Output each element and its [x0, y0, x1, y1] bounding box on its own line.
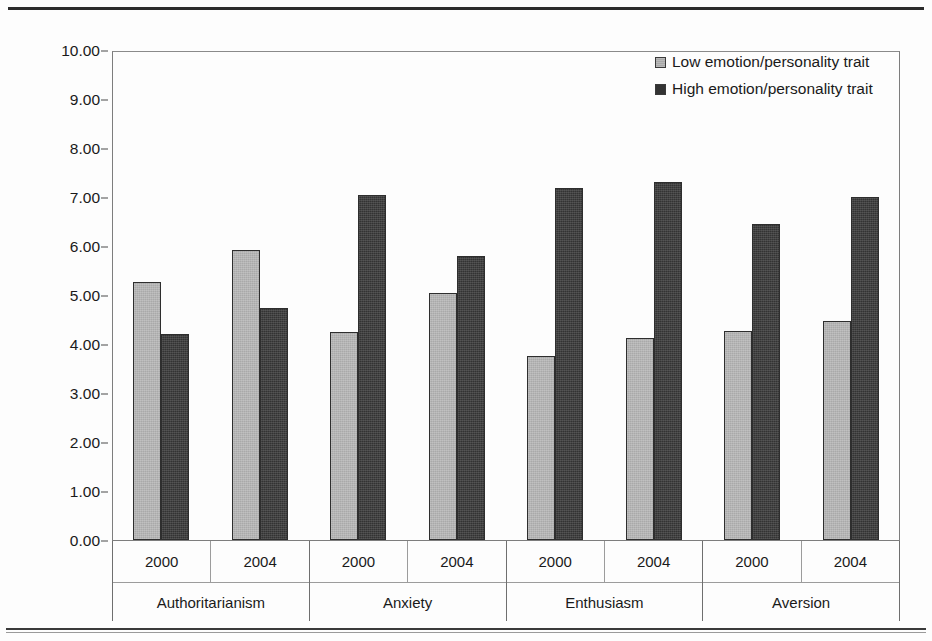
bar-low-trait	[232, 250, 260, 540]
bar-high-trait	[555, 188, 583, 540]
category-group-label: Authoritarianism	[113, 583, 309, 621]
y-axis-tick-label: 1.00	[70, 483, 100, 501]
category-axis: 20002004Authoritarianism20002004Anxiety2…	[112, 541, 900, 621]
legend-item-label: High emotion/personality trait	[672, 80, 873, 98]
legend-item-label: Low emotion/personality trait	[672, 53, 869, 71]
bar-high-trait	[752, 224, 780, 540]
bar-low-trait	[429, 293, 457, 540]
plot-area	[113, 52, 899, 540]
bar-high-trait	[654, 182, 682, 540]
bar-pair	[409, 52, 508, 540]
y-axis-tick-label: 8.00	[70, 140, 100, 158]
y-axis-tick-mark	[101, 100, 108, 101]
category-year-label: 2004	[407, 541, 505, 582]
bar-low-trait	[823, 321, 851, 540]
y-axis-tick-label: 4.00	[70, 336, 100, 354]
category-group: 20002004Enthusiasm	[506, 541, 703, 621]
category-year-label: 2004	[210, 541, 308, 582]
page-bottom-rule	[6, 628, 926, 630]
bar-low-trait	[330, 332, 358, 540]
category-group-label: Aversion	[703, 583, 899, 621]
y-axis-tick-mark	[101, 394, 108, 395]
bar-low-trait	[626, 338, 654, 540]
y-axis-tick-mark	[101, 541, 108, 542]
y-axis-tick-mark	[101, 51, 108, 52]
bar-high-trait	[358, 195, 386, 540]
y-axis-tick-label: 6.00	[70, 238, 100, 256]
legend-swatch-icon	[655, 57, 666, 68]
bar-pair	[310, 52, 409, 540]
legend-item: Low emotion/personality trait	[655, 50, 893, 74]
y-axis-tick-labels: 10.009.008.007.006.005.004.003.002.001.0…	[52, 51, 108, 541]
y-axis-tick-mark	[101, 492, 108, 493]
bar-high-trait	[260, 308, 288, 540]
bar-pair	[507, 52, 606, 540]
chart-legend: Low emotion/personality traitHigh emotio…	[655, 50, 893, 104]
category-group: 20002004Anxiety	[309, 541, 506, 621]
bar-pair	[704, 52, 803, 540]
category-axis-groups: 20002004Authoritarianism20002004Anxiety2…	[112, 541, 900, 621]
bar-high-trait	[851, 197, 879, 540]
category-year-label: 2000	[703, 541, 800, 582]
category-year-row: 20002004	[507, 541, 703, 583]
category-group-label: Enthusiasm	[507, 583, 703, 621]
page-top-rule	[8, 7, 924, 10]
y-axis-tick-mark	[101, 443, 108, 444]
category-year-label: 2004	[604, 541, 702, 582]
legend-item: High emotion/personality trait	[655, 77, 893, 101]
category-year-row: 20002004	[113, 541, 309, 583]
category-group: 20002004Aversion	[702, 541, 900, 621]
bar-low-trait	[724, 331, 752, 540]
category-year-label: 2004	[801, 541, 899, 582]
bar-pair	[606, 52, 705, 540]
category-year-row: 20002004	[310, 541, 506, 583]
y-axis-tick-mark	[101, 149, 108, 150]
legend-swatch-icon	[655, 84, 666, 95]
category-year-label: 2000	[507, 541, 604, 582]
category-group: 20002004Authoritarianism	[112, 541, 309, 621]
y-axis-tick-label: 9.00	[70, 91, 100, 109]
y-axis-tick-label: 5.00	[70, 287, 100, 305]
y-axis-tick-label: 7.00	[70, 189, 100, 207]
bar-low-trait	[133, 282, 161, 540]
bar-pair	[212, 52, 311, 540]
page-bottom-rule-secondary	[6, 632, 926, 633]
y-axis-tick-mark	[101, 345, 108, 346]
y-axis-tick-mark	[101, 296, 108, 297]
category-year-label: 2000	[113, 541, 210, 582]
category-group-label: Anxiety	[310, 583, 506, 621]
y-axis-tick-label: 2.00	[70, 434, 100, 452]
bar-low-trait	[527, 356, 555, 540]
bar-high-trait	[161, 334, 189, 540]
category-year-label: 2000	[310, 541, 407, 582]
y-axis-tick-mark	[101, 198, 108, 199]
y-axis-tick-label: 10.00	[61, 42, 100, 60]
bar-high-trait	[457, 256, 485, 540]
y-axis-tick-label: 3.00	[70, 385, 100, 403]
plot-frame	[112, 51, 900, 541]
bar-pair	[803, 52, 902, 540]
category-year-row: 20002004	[703, 541, 899, 583]
y-axis-tick-mark	[101, 247, 108, 248]
bar-pair	[113, 52, 212, 540]
y-axis-tick-label: 0.00	[70, 532, 100, 550]
